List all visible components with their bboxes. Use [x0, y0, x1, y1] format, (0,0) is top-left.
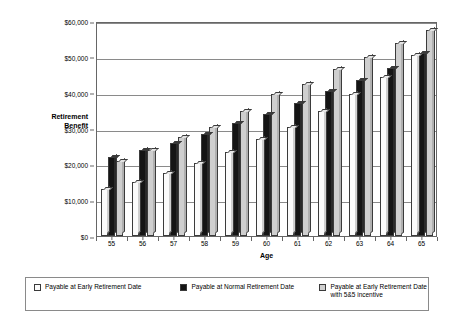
x-axis-separator-tick — [127, 237, 128, 241]
bar-top-face — [304, 82, 314, 85]
bar-side-face — [122, 158, 125, 234]
bar-top-face — [366, 55, 376, 58]
bar-side-face — [145, 147, 148, 234]
bar-side-face — [308, 81, 311, 234]
x-axis-tick-label-58: 58 — [201, 240, 208, 247]
bar-top-face — [397, 41, 407, 44]
y-axis-tick-mark — [90, 22, 94, 23]
y-axis-tick-mark — [90, 165, 94, 166]
x-axis-separator-tick — [375, 237, 376, 241]
bar-side-face — [339, 66, 342, 234]
bar-group-age-60 — [256, 23, 282, 236]
x-axis-tick-mark — [266, 236, 267, 240]
x-axis-tick-label-55: 55 — [108, 240, 115, 247]
y-axis-tick-label: $10,000 — [0, 198, 88, 205]
x-axis-separator-tick — [96, 237, 97, 241]
bar-side-face — [370, 54, 373, 234]
retirement-benefit-bar-chart: Retirement Benefit $0$10,000$20,000$30,0… — [0, 0, 453, 268]
y-axis-tick-labels: $0$10,000$20,000$30,000$40,000$50,000$60… — [0, 0, 92, 268]
bar-side-face — [393, 65, 396, 234]
bar-group-age-64 — [380, 23, 406, 236]
x-axis-tick-mark — [359, 236, 360, 240]
bar-group-age-63 — [349, 23, 375, 236]
bar-group-age-58 — [194, 23, 220, 236]
bar-series-container — [97, 23, 436, 236]
legend-label: Payable at Early Retirement Date — [45, 283, 141, 291]
y-axis-tick-label: $60,000 — [0, 19, 88, 26]
bar-side-face — [432, 27, 435, 234]
x-axis-separator-tick — [282, 237, 283, 241]
bar-side-face — [269, 111, 272, 234]
y-axis-tick-label: $40,000 — [0, 90, 88, 97]
legend-item-normal-retirement: Payable at Normal Retirement Date — [172, 283, 311, 291]
bar-group-age-55 — [101, 23, 127, 236]
x-axis-separator-tick — [437, 237, 438, 241]
x-axis-tick-mark — [173, 236, 174, 240]
x-axis-tick-label-65: 65 — [418, 240, 425, 247]
bar-top-face — [428, 28, 438, 31]
bar-top-face — [335, 67, 345, 70]
bar-side-face — [300, 100, 303, 234]
bar-58-series-0 — [194, 163, 201, 236]
x-axis-separator-tick — [313, 237, 314, 241]
legend-item-early-retirement-5and5: Payable at Early Retirement Date with 5&… — [311, 283, 428, 299]
x-axis-tick-label-63: 63 — [356, 240, 363, 247]
x-axis-separator-tick — [189, 237, 190, 241]
x-axis-tick-label-61: 61 — [294, 240, 301, 247]
x-axis-tick-label-59: 59 — [232, 240, 239, 247]
x-axis-tick-label-57: 57 — [170, 240, 177, 247]
bar-side-face — [231, 149, 234, 234]
bar-side-face — [153, 147, 156, 234]
bar-64-series-0 — [380, 77, 387, 236]
bar-side-face — [386, 74, 389, 234]
x-axis-tick-mark — [297, 236, 298, 240]
bar-side-face — [424, 50, 427, 234]
bar-side-face — [362, 77, 365, 234]
bar-55-series-0 — [101, 189, 108, 236]
bar-group-age-62 — [318, 23, 344, 236]
bar-side-face — [114, 154, 117, 234]
x-axis-tick-mark — [390, 236, 391, 240]
y-axis-tick-mark — [90, 201, 94, 202]
chart-legend: Payable at Early Retirement Date Payable… — [25, 277, 429, 311]
bar-side-face — [107, 186, 110, 234]
x-axis-tick-label-56: 56 — [139, 240, 146, 247]
y-axis-tick-label: $20,000 — [0, 162, 88, 169]
y-axis-tick-label: $0 — [0, 234, 88, 241]
bar-top-face — [242, 109, 252, 112]
legend-item-early-retirement: Payable at Early Retirement Date — [26, 283, 172, 291]
x-axis-tick-mark — [328, 236, 329, 240]
legend-swatch-icon — [180, 284, 187, 291]
bar-side-face — [176, 140, 179, 234]
bar-top-face — [110, 155, 120, 158]
x-axis-tick-label-62: 62 — [325, 240, 332, 247]
y-axis-tick-label: $30,000 — [0, 126, 88, 133]
bar-side-face — [331, 88, 334, 234]
x-axis-separator-tick — [220, 237, 221, 241]
legend-label: Payable at Normal Retirement Date — [191, 283, 294, 291]
legend-swatch-icon — [319, 284, 326, 291]
x-axis-separator-tick — [344, 237, 345, 241]
x-axis-tick-mark — [421, 236, 422, 240]
bar-side-face — [262, 136, 265, 234]
plot-area — [96, 22, 437, 237]
bar-side-face — [200, 160, 203, 234]
y-axis-tick-mark — [90, 237, 94, 238]
bar-side-face — [293, 124, 296, 234]
bar-63-series-0 — [349, 94, 356, 236]
bar-59-series-0 — [225, 152, 232, 236]
y-axis-tick-label: $50,000 — [0, 54, 88, 61]
x-axis-tick-label-64: 64 — [387, 240, 394, 247]
y-axis-tick-mark — [90, 94, 94, 95]
x-axis-tick-label-60: 60 — [263, 240, 270, 247]
bar-group-age-57 — [163, 23, 189, 236]
bar-side-face — [215, 124, 218, 234]
bar-65-series-0 — [411, 55, 418, 236]
legend-label: Payable at Early Retirement Date with 5&… — [330, 283, 428, 299]
y-axis-tick-mark — [90, 58, 94, 59]
bar-side-face — [238, 120, 241, 234]
x-axis-tick-mark — [235, 236, 236, 240]
bar-group-age-61 — [287, 23, 313, 236]
x-axis-tick-mark — [142, 236, 143, 240]
bar-56-series-0 — [132, 182, 139, 236]
